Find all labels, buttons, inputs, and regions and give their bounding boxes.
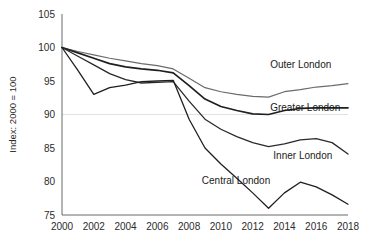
x-tick-label: 2004 xyxy=(114,221,137,232)
y-axis-title: Index: 2000 = 100 xyxy=(7,76,18,152)
y-tick-label: 85 xyxy=(44,143,56,154)
x-tick-label: 2008 xyxy=(178,221,201,232)
series-label-outer-london: Outer London xyxy=(270,59,331,70)
y-tick-label: 75 xyxy=(44,210,56,221)
x-tick-label: 2010 xyxy=(210,221,233,232)
x-tick-label: 2016 xyxy=(305,221,328,232)
series-label-central-london: Central London xyxy=(202,175,270,186)
y-tick-label: 105 xyxy=(38,9,55,20)
y-tick-label: 95 xyxy=(44,76,56,87)
y-tick-label: 90 xyxy=(44,109,56,120)
y-tick-label: 100 xyxy=(38,42,55,53)
x-tick-label: 2002 xyxy=(83,221,106,232)
y-tick-label: 80 xyxy=(44,176,56,187)
x-tick-label: 2018 xyxy=(337,221,360,232)
chart-canvas: 7580859095100105 20002002200420062008201… xyxy=(0,0,375,245)
x-tick-label: 2012 xyxy=(242,221,265,232)
x-tick-label: 2000 xyxy=(51,221,74,232)
chart-background xyxy=(0,0,375,245)
series-label-greater-london: Greater London xyxy=(270,102,340,113)
x-tick-label: 2006 xyxy=(146,221,169,232)
series-label-inner-london: Inner London xyxy=(273,150,332,161)
line-chart: 7580859095100105 20002002200420062008201… xyxy=(0,0,375,245)
x-tick-label: 2014 xyxy=(273,221,296,232)
